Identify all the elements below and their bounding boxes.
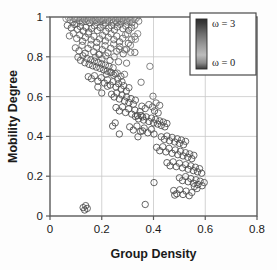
x-tick-label: 0 — [47, 223, 53, 235]
y-tick-label: 1 — [37, 11, 43, 23]
colorbar-gradient — [196, 19, 207, 69]
x-axis-ticks: 00.20.40.60.8 — [47, 216, 265, 235]
x-tick-label: 0.8 — [249, 223, 265, 235]
legend-top-label: ω = 3 — [212, 18, 235, 29]
y-tick-label: 0.6 — [27, 91, 43, 103]
x-tick-label: 0.4 — [146, 223, 163, 235]
x-tick-label: 0.6 — [197, 223, 213, 235]
y-tick-label: 0 — [37, 210, 43, 222]
x-tick-label: 0.2 — [94, 223, 110, 235]
x-axis-label: Group Density — [110, 247, 196, 261]
y-tick-label: 0.8 — [27, 51, 43, 63]
chart-figure: 00.20.40.60.8 00.20.40.60.81 Group Densi… — [0, 0, 277, 270]
omega-colorbar-legend: ω = 3 ω = 0 — [190, 13, 256, 75]
y-tick-label: 0.2 — [27, 170, 43, 182]
legend-bottom-label: ω = 0 — [212, 57, 235, 68]
scatter-plot: 00.20.40.60.8 00.20.40.60.81 Group Densi… — [0, 0, 277, 270]
y-tick-label: 0.4 — [27, 130, 44, 142]
y-axis-label: Mobility Degree — [6, 70, 20, 163]
y-axis-ticks: 00.20.40.60.81 — [27, 11, 50, 222]
